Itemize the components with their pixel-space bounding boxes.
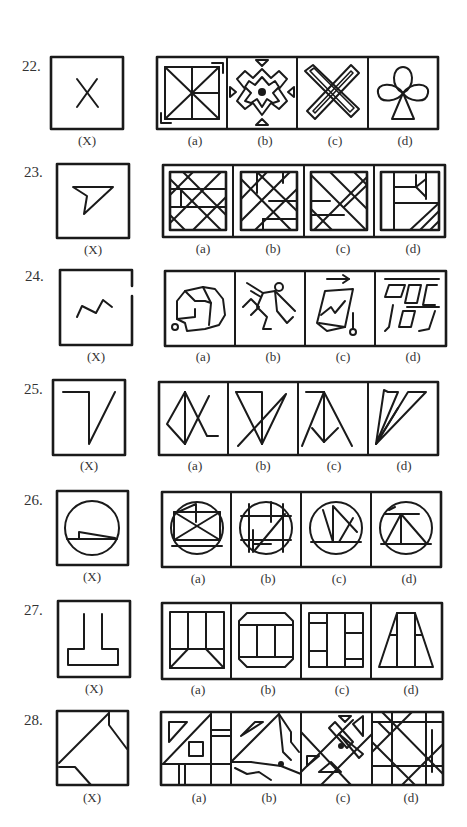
question-figure-28 [57, 711, 128, 785]
option-label: (b) [248, 571, 288, 587]
option-c-figure [305, 65, 359, 119]
option-label: (b) [245, 133, 285, 149]
option-label: (c) [323, 790, 363, 806]
option-b-figure [236, 392, 286, 446]
option-label: (b) [249, 790, 289, 806]
option-d-figure [381, 172, 439, 230]
option-b-figure [241, 172, 297, 230]
options-strip-22 [157, 57, 438, 129]
options-strip-24 [165, 271, 446, 346]
question-figure-label: (X) [69, 458, 109, 474]
option-label: (b) [248, 682, 288, 698]
option-a-figure [170, 172, 226, 230]
question-figure-label: (X) [72, 790, 112, 806]
option-d-figure [380, 502, 432, 554]
option-label: (b) [243, 458, 283, 474]
question-figure-24 [60, 270, 132, 345]
question-figure-label: (X) [74, 681, 114, 697]
option-label: (a) [178, 682, 218, 698]
options-strip-26 [162, 492, 441, 567]
options-strip-28 [161, 712, 443, 785]
option-b-figure [243, 283, 295, 329]
option-c-figure [302, 392, 352, 446]
option-label: (a) [175, 133, 215, 149]
question-figure-label: (X) [76, 349, 116, 365]
option-a-figure [171, 502, 223, 554]
option-d-figure [376, 390, 426, 444]
option-label: (c) [323, 349, 363, 365]
option-c-figure [301, 716, 372, 785]
option-c-figure [310, 502, 362, 554]
question-figure-23 [57, 164, 129, 238]
option-d-figure [372, 712, 443, 785]
question-figure-26 [57, 491, 128, 565]
option-b-figure [231, 714, 301, 780]
question-figure-label: (X) [67, 133, 107, 149]
option-a-figure [163, 714, 231, 785]
option-label: (a) [183, 349, 223, 365]
option-label: (a) [179, 790, 219, 806]
option-b-figure [239, 613, 293, 667]
options-strip-23 [163, 165, 445, 237]
option-label: (c) [323, 241, 363, 257]
option-a-figure [161, 63, 223, 123]
question-number: 25. [24, 381, 43, 398]
option-label: (c) [322, 682, 362, 698]
question-figure-25 [53, 380, 125, 455]
question-figure-27 [58, 601, 130, 677]
question-number: 24. [25, 268, 44, 285]
option-d-figure [378, 67, 428, 119]
option-c-figure [311, 172, 367, 230]
option-label: (d) [384, 458, 424, 474]
option-label: (d) [391, 790, 431, 806]
question-figure-label: (X) [73, 242, 113, 258]
question-number: 22. [22, 58, 41, 75]
option-label: (d) [393, 349, 433, 365]
option-a-figure [172, 287, 225, 331]
option-label: (c) [314, 458, 354, 474]
option-label: (c) [315, 133, 355, 149]
option-label: (d) [391, 682, 431, 698]
option-label: (d) [389, 571, 429, 587]
option-c-figure [309, 613, 363, 667]
option-d-figure [385, 279, 439, 331]
question-figure-label: (X) [72, 569, 112, 585]
options-strip-27 [162, 603, 442, 679]
option-label: (a) [183, 241, 223, 257]
option-label: (a) [178, 571, 218, 587]
option-label: (b) [253, 349, 293, 365]
question-number: 27. [24, 602, 43, 619]
option-label: (b) [253, 241, 293, 257]
option-a-figure [170, 612, 224, 668]
question-figure-22 [51, 57, 123, 129]
option-c-figure [317, 275, 356, 335]
question-number: 26. [24, 492, 43, 509]
question-number: 23. [24, 164, 43, 181]
question-number: 28. [24, 712, 43, 729]
option-a-figure [167, 392, 218, 444]
option-label: (a) [175, 458, 215, 474]
option-b-figure [230, 60, 294, 125]
option-b-figure [240, 502, 292, 554]
option-d-figure [379, 613, 433, 667]
option-label: (c) [319, 571, 359, 587]
option-label: (d) [393, 241, 433, 257]
options-strip-25 [159, 382, 438, 455]
option-label: (d) [385, 133, 425, 149]
